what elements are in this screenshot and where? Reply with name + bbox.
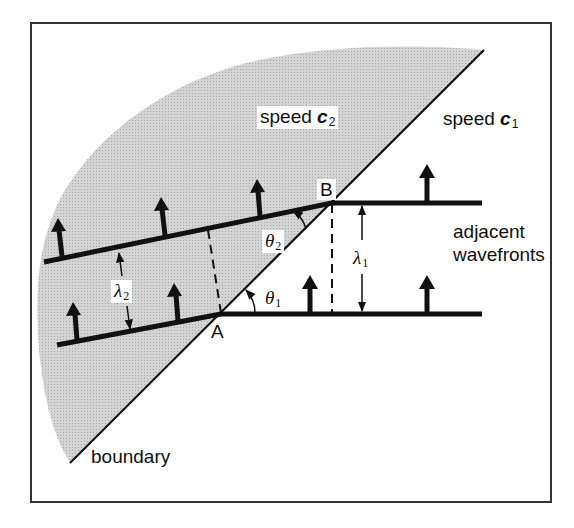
theta-symbol: θ <box>265 230 274 251</box>
lambda-1-label: λ1 <box>353 248 368 269</box>
speed-c2-label: speed c2 <box>257 106 338 129</box>
theta-1-label: θ1 <box>265 288 281 309</box>
arrow-up-icon <box>419 275 435 314</box>
speed-subscript: 1 <box>512 117 519 131</box>
point-a-label: A <box>211 322 224 341</box>
point-b-label: B <box>317 179 336 200</box>
theta-2-label: θ2 <box>262 230 284 253</box>
speed-symbol: c <box>317 106 328 127</box>
adjacent-text: adjacent <box>453 220 545 243</box>
lambda-subscript: 1 <box>362 256 368 270</box>
lambda-symbol: λ <box>353 247 361 268</box>
lambda-symbol: λ <box>114 280 122 301</box>
lambda-subscript: 2 <box>123 289 129 303</box>
adjacent-wavefronts-label: adjacent wavefronts <box>453 220 545 266</box>
speed-symbol: c <box>500 108 511 129</box>
lambda-2-label: λ2 <box>111 280 132 303</box>
theta-symbol: θ <box>265 287 274 308</box>
wavefronts-text: wavefronts <box>453 243 545 266</box>
theta-1-arc <box>246 290 255 314</box>
theta-subscript: 2 <box>275 239 281 253</box>
boundary-label: boundary <box>91 447 170 466</box>
speed-text: speed <box>443 108 495 129</box>
arrow-up-icon <box>419 164 435 203</box>
speed-text: speed <box>260 106 312 127</box>
theta-subscript: 1 <box>275 296 281 310</box>
speed-subscript: 2 <box>329 115 336 129</box>
arrow-up-icon <box>302 275 318 314</box>
speed-c1-label: speed c1 <box>443 109 518 130</box>
